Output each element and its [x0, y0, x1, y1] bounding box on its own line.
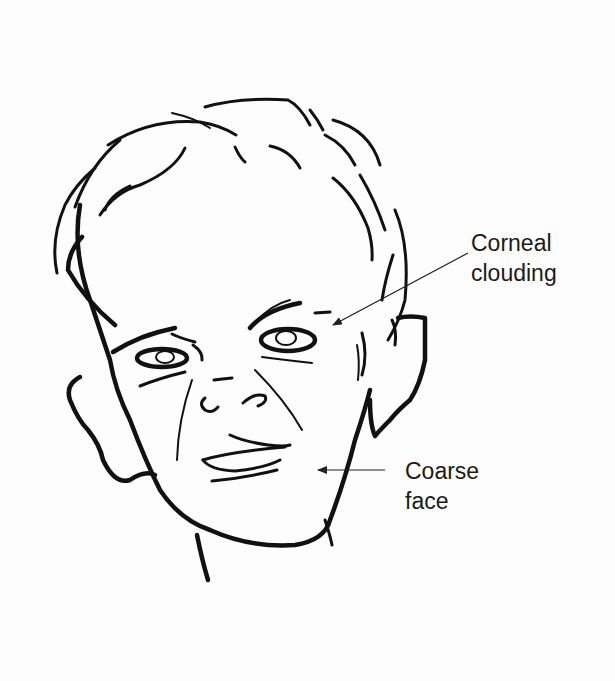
face-illustration: [0, 0, 615, 681]
hair-strokes: [55, 99, 406, 340]
corneal-clouding-label: Corneal clouding: [471, 228, 557, 288]
eyes-and-brows: [113, 300, 330, 386]
hair-side-tufts: [357, 320, 396, 380]
nose-mouth: [177, 370, 302, 481]
coarse-face-label: Coarse face: [405, 456, 479, 516]
diagram-canvas: Corneal clouding Coarse face: [0, 0, 615, 681]
